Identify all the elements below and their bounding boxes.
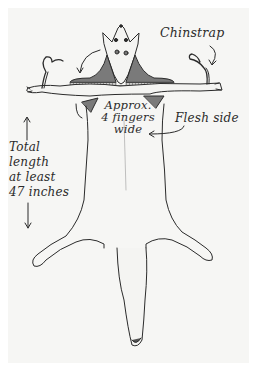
flesh-side-label: Flesh side xyxy=(175,112,239,125)
tail xyxy=(117,248,147,346)
total-line-3: at least xyxy=(9,170,69,185)
total-line-1: Total xyxy=(9,140,69,155)
total-line-4: 47 inches xyxy=(9,185,69,200)
chinstrap-label: Chinstrap xyxy=(160,26,224,39)
front-legs xyxy=(27,83,222,96)
approx-arrow xyxy=(76,104,82,118)
length-down-arrow xyxy=(25,203,31,228)
length-up-arrow xyxy=(24,117,30,140)
approx-line-3: wide xyxy=(100,123,156,135)
total-line-2: length xyxy=(9,155,69,170)
approx-four-fingers-label: Approx. 4 fingers wide xyxy=(100,99,156,135)
total-length-label: Total length at least 47 inches xyxy=(9,140,69,200)
chinstrap-arrow xyxy=(210,46,216,64)
